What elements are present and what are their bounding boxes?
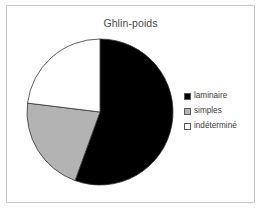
legend-swatch-laminaire	[184, 93, 191, 100]
legend-label-simples: simples	[194, 107, 222, 115]
pie-chart	[20, 32, 180, 192]
chart-legend: laminaire simples indéterminé	[184, 89, 258, 134]
legend-label-laminaire: laminaire	[194, 92, 227, 100]
plot-area: laminaire simples indéterminé	[0, 0, 263, 212]
legend-label-indetermine: indéterminé	[194, 122, 237, 130]
legend-item-laminaire[interactable]: laminaire	[184, 89, 258, 103]
pie-slice[interactable]	[28, 39, 100, 112]
legend-item-indetermine[interactable]: indéterminé	[184, 119, 258, 133]
legend-swatch-simples	[184, 108, 191, 115]
legend-item-simples[interactable]: simples	[184, 104, 258, 118]
legend-swatch-indetermine	[184, 123, 191, 130]
